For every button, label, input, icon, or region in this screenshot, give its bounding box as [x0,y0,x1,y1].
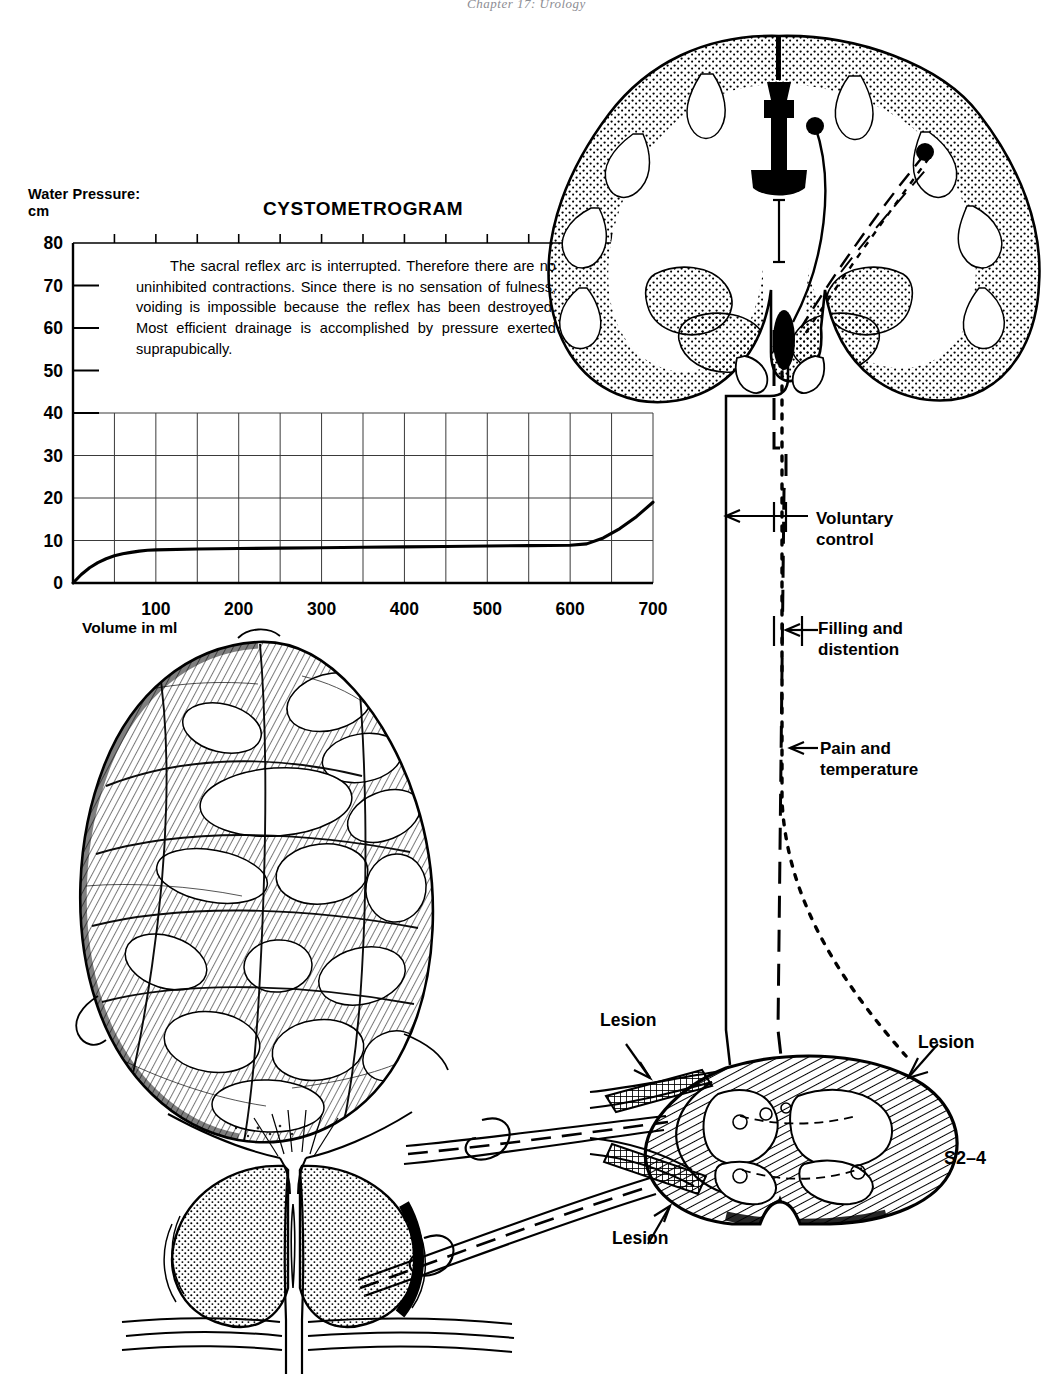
label-filling-line1: Filling and [818,619,903,638]
pelvic-floor [122,1318,514,1352]
chart-x-tick: 300 [307,599,336,619]
tract-pain [782,330,906,1056]
label-lesion-upper-root: Lesion [600,1010,656,1031]
chart-x-tick: 100 [141,599,170,619]
chart-axis-title-line1: Water Pressure: [28,186,140,202]
chart-x-tick: 400 [390,599,419,619]
chart-x-tick: 200 [224,599,253,619]
tract-filling [774,330,786,1065]
chart-x-tick: 500 [473,599,502,619]
tract-voluntary [726,330,788,1065]
label-filling-distention: Filling and distention [818,618,903,661]
chart-y-tick: 50 [44,361,64,381]
illustration-page: Chapter 17: Urology Water Pressure: cm C… [0,0,1053,1387]
chart-y-tick: 60 [44,318,64,338]
chart-y-tick: 80 [44,233,64,253]
running-head: Chapter 17: Urology [0,0,1053,12]
chart-y-tick: 40 [44,403,64,423]
chart-x-tick: 600 [556,599,585,619]
chart-y-tick: 30 [44,446,64,466]
label-pain-line2: temperature [820,760,918,779]
chart-y-tick: 20 [44,488,64,508]
chart-x-tick-labels: 100200300400500600700 [141,599,668,619]
cortical-nucleus-sensory [916,143,934,161]
chart-axis-title-line2: cm [28,203,49,219]
label-filling-line2: distention [818,640,899,659]
label-lesion-cord: Lesion [918,1032,974,1053]
label-voluntary-control: Voluntary control [816,508,893,551]
prostate-lobe-left [172,1166,288,1327]
chart-x-tick: 700 [638,599,667,619]
label-cord-segment: S2–4 [944,1148,986,1169]
chart-gridlines [73,413,653,583]
chart-y-tick: 70 [44,276,64,296]
detrusor-fan [254,1110,338,1156]
chart-y-tick: 10 [44,531,64,551]
label-voluntary-line1: Voluntary [816,509,893,528]
label-pain-temperature: Pain and temperature [820,738,918,781]
spinal-cord-section [590,1030,990,1250]
label-lesion-lower-root: Lesion [612,1228,668,1249]
chart-x-axis-label: Volume in ml [82,619,177,637]
cord-white-matter [590,1030,990,1250]
spinal-tract-lines [690,330,950,1070]
chart-y-tick-labels: 01020304050607080 [44,233,64,593]
chart-title: CYSTOMETROGRAM [263,198,463,220]
label-pain-line1: Pain and [820,739,891,758]
chart-note-text: The sacral reflex arc is interrupted. Th… [136,258,556,357]
chart-left-ticks [73,286,99,414]
tract-pointers [726,502,818,754]
label-voluntary-line2: control [816,530,874,549]
chart-note: The sacral reflex arc is interrupted. Th… [136,256,556,360]
chart-y-tick: 0 [53,573,63,593]
